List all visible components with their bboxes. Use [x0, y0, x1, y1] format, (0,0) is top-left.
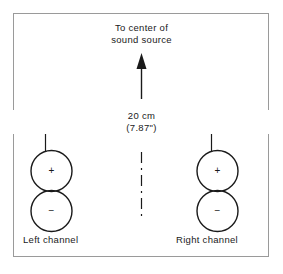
- sound-source-caption-line-2: sound source: [0, 34, 283, 46]
- right-channel-symbol: [197, 151, 238, 232]
- spacing-dimension-caption: 20 cm (7.87"): [0, 110, 283, 134]
- right-positive-terminal-label: +: [211, 165, 225, 176]
- left-negative-terminal-label: −: [45, 205, 59, 216]
- right-negative-terminal-label: −: [211, 205, 225, 216]
- spacing-metric-label: 20 cm: [0, 110, 283, 122]
- left-channel-symbol: [31, 151, 72, 232]
- spacing-imperial-label: (7.87"): [0, 122, 283, 134]
- sound-source-arrow: [137, 53, 147, 99]
- left-channel-label: Left channel: [23, 234, 78, 246]
- stereo-placement-diagram: + − + − To center of sound source 20 cm …: [0, 0, 283, 274]
- left-positive-terminal-label: +: [45, 165, 59, 176]
- sound-source-caption: To center of sound source: [0, 22, 283, 46]
- right-channel-label: Right channel: [176, 234, 238, 246]
- sound-source-caption-line-1: To center of: [115, 22, 168, 33]
